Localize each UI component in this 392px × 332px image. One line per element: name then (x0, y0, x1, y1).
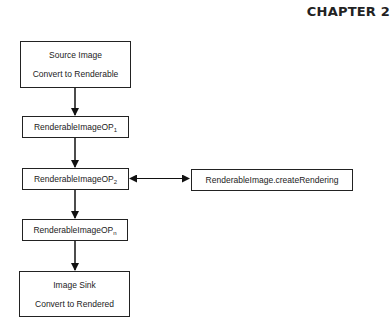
node-create-rendering-label: RenderableImage.createRendering (206, 175, 339, 185)
node-sink-title: Image Sink (53, 280, 96, 290)
node-op2-label: RenderableImageOP2 (34, 174, 117, 184)
op1-base: RenderableImageOP (34, 122, 114, 132)
node-sink-subtitle: Convert to Rendered (35, 299, 114, 309)
opn-base: RenderableImageOP (33, 225, 113, 235)
node-source-image: Source Image Convert to Renderable (20, 41, 131, 88)
node-op1-label: RenderableImageOP1 (34, 122, 117, 132)
node-create-rendering: RenderableImage.createRendering (191, 169, 353, 191)
op1-subscript: 1 (114, 127, 117, 133)
node-renderable-op2: RenderableImageOP2 (22, 168, 129, 190)
node-source-subtitle: Convert to Renderable (33, 69, 119, 79)
node-image-sink: Image Sink Convert to Rendered (19, 271, 130, 317)
node-opn-label: RenderableImageOPn (33, 225, 116, 235)
node-source-title: Source Image (49, 50, 102, 60)
node-renderable-op1: RenderableImageOP1 (22, 116, 129, 138)
opn-subscript: n (113, 230, 116, 236)
op2-base: RenderableImageOP (34, 174, 114, 184)
op2-subscript: 2 (114, 179, 117, 185)
node-renderable-opn: RenderableImageOPn (22, 219, 128, 241)
